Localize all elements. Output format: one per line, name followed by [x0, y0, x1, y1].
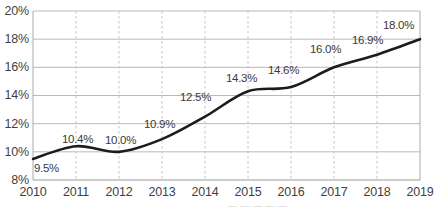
xtick-label-2014: 2014 — [183, 186, 227, 199]
ytick-label-12: 12% — [0, 118, 29, 131]
xtick-label-2013: 2013 — [140, 186, 184, 199]
point-label-2013: 10.9% — [144, 119, 175, 131]
ytick-label-18: 18% — [0, 33, 29, 46]
ytick-label-20: 20% — [0, 5, 29, 18]
ytick-label-14: 14% — [0, 89, 29, 102]
point-label-2015: 14.3% — [226, 73, 257, 85]
xtick-label-2010: 2010 — [11, 186, 55, 199]
xtick-label-2016: 2016 — [269, 186, 313, 199]
xtick-label-2012: 2012 — [97, 186, 141, 199]
ytick-label-16: 16% — [0, 61, 29, 74]
ytick-label-10: 10% — [0, 146, 29, 159]
point-label-2010: 9.5% — [34, 163, 59, 175]
footer-clipped-strip: — — — — — — [0, 205, 426, 211]
footer-clipped-text: — — — — — — [228, 205, 288, 211]
xtick-label-2011: 2011 — [54, 186, 98, 199]
point-label-2017: 16.0% — [310, 44, 341, 56]
xtick-label-2018: 2018 — [355, 186, 399, 199]
point-label-2016: 14.6% — [268, 65, 299, 77]
point-label-2012: 10.0% — [105, 135, 136, 147]
point-label-2019: 18.0% — [383, 20, 414, 32]
point-label-2018: 16.9% — [352, 35, 383, 47]
point-label-2014: 12.5% — [180, 92, 211, 104]
point-label-2011: 10.4% — [62, 134, 93, 146]
xtick-label-2017: 2017 — [312, 186, 356, 199]
xtick-label-2019: 2019 — [398, 186, 438, 199]
xtick-label-2015: 2015 — [226, 186, 270, 199]
